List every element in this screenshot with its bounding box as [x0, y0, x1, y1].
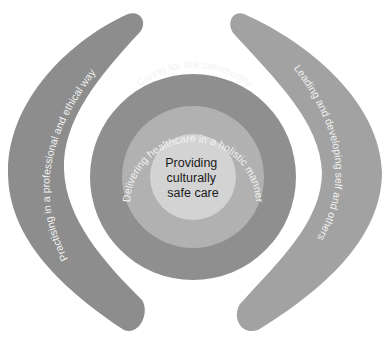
culturally-safe-care-diagram: Practising in a professional and ethical… [0, 0, 386, 338]
inner-line-1: Providing [165, 156, 217, 170]
inner-line-3: safe care [167, 186, 218, 200]
inner-circle-label: Providing culturally safe care [165, 156, 221, 200]
inner-line-2: culturally [167, 171, 217, 185]
